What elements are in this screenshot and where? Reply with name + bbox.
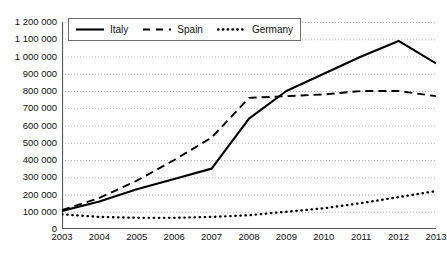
y-tick-label: 900 000 [23,69,57,79]
dotted-line-icon [217,25,247,34]
y-axis: 1 200 0001 100 0001 000 000900 000800 00… [0,0,57,259]
y-tick-label: 500 000 [23,138,57,148]
dashed-line-icon [142,25,172,34]
y-tick-label: 1 200 000 [15,17,57,27]
y-tick-label: 1 000 000 [15,52,57,62]
x-axis: 2003200420052006200720082009201020112012… [62,232,436,254]
x-tick-label: 2010 [313,232,334,242]
x-tick-label: 2003 [51,232,72,242]
plot-area [62,22,436,229]
legend-label-italy: Italy [110,25,128,35]
x-tick-label: 2008 [238,232,259,242]
y-tick-label: 700 000 [23,104,57,114]
y-tick-label: 800 000 [23,86,57,96]
legend-label-germany: Germany [252,25,293,35]
y-tick-label: 300 000 [23,173,57,183]
y-tick-label: 600 000 [23,121,57,131]
x-tick-label: 2013 [425,232,446,242]
legend-item-germany: Germany [217,25,293,35]
x-tick-label: 2007 [201,232,222,242]
plot-svg [62,22,436,229]
y-tick-label: 100 000 [23,207,57,217]
y-tick-label: 400 000 [23,155,57,165]
x-tick-label: 2006 [164,232,185,242]
x-tick-label: 2011 [351,232,371,242]
x-tick-label: 2012 [388,232,409,242]
x-tick-label: 2005 [126,232,147,242]
legend-label-spain: Spain [177,25,203,35]
legend-item-spain: Spain [142,25,203,35]
x-tick-label: 2004 [89,232,110,242]
y-tick-label: 1 100 000 [15,35,57,45]
solid-line-icon [75,25,105,34]
y-tick-label: 200 000 [23,190,57,200]
x-tick-label: 2009 [276,232,297,242]
legend: Italy Spain Germany [68,18,301,41]
legend-item-italy: Italy [75,25,128,35]
